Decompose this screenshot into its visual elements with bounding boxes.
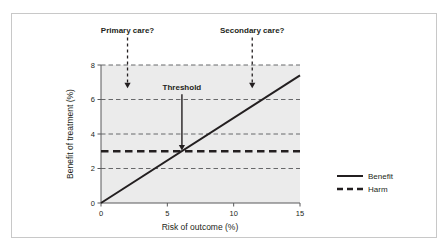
legend-label-harm: Harm [368, 185, 388, 194]
x-tick-label: 0 [99, 209, 103, 218]
x-tick-label: 5 [165, 209, 169, 218]
y-tick-label: 2 [91, 164, 95, 173]
y-tick-label: 0 [91, 199, 95, 208]
annotation-label: Threshold [163, 83, 202, 92]
figure-container: 02468 051015 Benefit of treatment (%) Ri… [0, 0, 447, 250]
y-tick-label: 8 [91, 61, 95, 70]
chart-svg: 02468 051015 Benefit of treatment (%) Ri… [0, 0, 447, 250]
y-tick-label: 4 [91, 130, 95, 139]
y-axis-label: Benefit of treatment (%) [65, 89, 75, 179]
x-axis-tick-labels: 051015 [99, 209, 304, 218]
legend: BenefitHarm [337, 172, 394, 194]
y-axis-tick-labels: 02468 [91, 61, 95, 208]
y-tick-label: 6 [91, 95, 95, 104]
y-axis-ticks [98, 65, 102, 203]
x-tick-label: 15 [296, 209, 304, 218]
x-axis-ticks [101, 203, 300, 207]
legend-label-benefit: Benefit [368, 172, 394, 181]
x-axis-label: Risk of outcome (%) [162, 222, 239, 232]
annotation-label: Secondary care? [220, 26, 285, 35]
x-tick-label: 10 [229, 209, 237, 218]
annotation-label: Primary care? [101, 26, 154, 35]
